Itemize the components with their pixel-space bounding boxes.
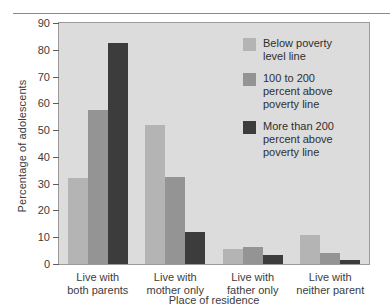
y-axis-tick	[53, 184, 59, 185]
y-axis-tick	[53, 50, 59, 51]
bar	[320, 253, 340, 264]
y-axis-tick-label: 0	[44, 258, 50, 270]
y-axis-tick	[53, 23, 59, 24]
y-axis-tick	[53, 210, 59, 211]
bar	[68, 178, 88, 264]
y-axis-tick-label: 60	[38, 97, 50, 109]
y-axis-tick-label: 30	[38, 178, 50, 190]
bar	[223, 249, 243, 264]
bar	[88, 110, 108, 264]
y-axis-tick	[53, 157, 59, 158]
bar	[165, 177, 185, 264]
bar	[243, 247, 263, 264]
legend-label: 100 to 200percent abovepoverty line	[263, 72, 333, 111]
bar-group	[137, 23, 215, 264]
bar-group	[59, 23, 137, 264]
y-axis-tick	[53, 237, 59, 238]
bar	[108, 43, 128, 264]
y-axis-tick-label: 20	[38, 204, 50, 216]
y-axis-tick	[53, 130, 59, 131]
legend-swatch	[243, 38, 256, 51]
legend-item: More than 200percent abovepoverty line	[243, 120, 361, 159]
chart-legend: Below povertylevel line100 to 200percent…	[243, 33, 361, 165]
x-axis-title: Place of residence	[58, 294, 370, 305]
bar	[263, 255, 283, 264]
y-axis-tick-label: 70	[38, 71, 50, 83]
legend-label: More than 200percent abovepoverty line	[263, 120, 334, 159]
y-axis-tick-label: 90	[38, 17, 50, 29]
bar	[300, 235, 320, 264]
legend-label: Below povertylevel line	[263, 37, 332, 63]
y-axis-tick-label: 10	[38, 231, 50, 243]
bar-chart-figure: Percentage of adolescents 01020304050607…	[0, 0, 390, 305]
legend-swatch	[243, 73, 256, 86]
y-axis-tick-label: 50	[38, 124, 50, 136]
y-axis-tick	[53, 264, 59, 265]
y-axis-title: Percentage of adolescents	[16, 46, 28, 246]
y-axis-tick-label: 80	[38, 44, 50, 56]
bar	[185, 232, 205, 264]
bar	[145, 125, 165, 264]
bar	[340, 260, 360, 264]
legend-swatch	[243, 121, 256, 134]
legend-item: 100 to 200percent abovepoverty line	[243, 72, 361, 111]
y-axis-tick-label: 40	[38, 151, 50, 163]
y-axis-tick	[53, 103, 59, 104]
header-rule	[13, 13, 390, 14]
legend-item: Below povertylevel line	[243, 37, 361, 63]
y-axis-tick	[53, 77, 59, 78]
